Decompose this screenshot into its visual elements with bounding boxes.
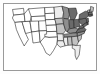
map-region-or[interactable]: Oregon [12,14,25,22]
map-region-tx[interactable]: Texas [40,37,57,56]
map-region-ma[interactable]: Massachusetts [88,12,92,14]
map-region-mt[interactable]: Montana [28,8,45,17]
map-region-nj[interactable]: New Jersey [86,18,88,23]
map-thumbnail-figure: WashingtonOregonCaliforniaNevadaIdahoMon… [0,0,100,74]
map-region-az[interactable]: Arizona [32,31,41,43]
map-region-ri[interactable]: Rhode Island [91,15,92,16]
map-region-ut[interactable]: Utah [30,21,39,32]
united-states-map[interactable]: WashingtonOregonCaliforniaNevadaIdahoMon… [0,0,100,74]
map-region-nd[interactable]: North Dakota [45,7,55,13]
states-layer: WashingtonOregonCaliforniaNevadaIdahoMon… [12,6,93,59]
map-region-fl[interactable]: Florida [72,45,80,60]
map-region-ks[interactable]: Kansas [46,25,57,32]
map-region-ct[interactable]: Connecticut [89,15,92,17]
map-region-mn[interactable]: Minnesota [54,6,64,18]
map-region-ne[interactable]: Nebraska [45,19,56,25]
map-region-me[interactable]: Maine [90,6,93,12]
map-region-ia[interactable]: Iowa [55,18,64,24]
map-region-ar[interactable]: Arkansas [57,34,64,41]
map-region-oh[interactable]: Ohio [74,19,80,28]
map-region-sd[interactable]: South Dakota [45,13,55,20]
map-region-mi[interactable]: Michigan [68,8,77,20]
map-region-ok[interactable]: Oklahoma [45,31,58,37]
